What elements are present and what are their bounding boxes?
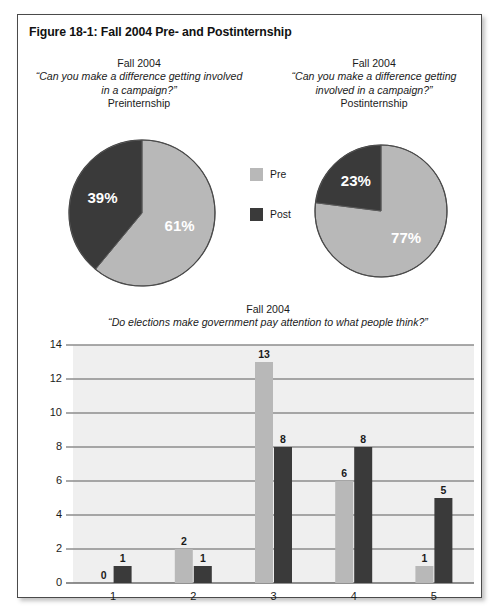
bar (194, 566, 212, 583)
pie-slice-label: 77% (391, 229, 421, 246)
x-axis-tick-label: 1 (110, 590, 116, 602)
bar (415, 566, 433, 583)
legend-swatch-pre (250, 168, 263, 181)
bar (335, 481, 353, 583)
bar-value-label: 8 (280, 433, 286, 445)
bar (274, 447, 292, 583)
bar-value-label: 0 (101, 569, 107, 581)
y-axis-tick-label: 12 (50, 372, 62, 384)
x-axis-tick-label: 2 (190, 590, 196, 602)
bar-value-label: 13 (258, 348, 270, 360)
bar (114, 566, 132, 583)
bar (255, 362, 273, 583)
y-axis-tick-label: 0 (56, 576, 62, 588)
bar-value-label: 1 (120, 552, 126, 564)
bar-value-label: 1 (200, 552, 206, 564)
legend-item-post: Post (250, 207, 302, 221)
y-axis-tick-label: 4 (56, 508, 62, 520)
bar-value-label: 2 (181, 535, 187, 547)
figure-frame: Figure 18-1: Fall 2004 Pre- and Postinte… (17, 14, 482, 598)
pie-left-season: Fall 2004 (32, 57, 246, 70)
pie-slice-label: 23% (341, 172, 371, 189)
bar (434, 498, 452, 583)
bar-header-season: Fall 2004 (78, 303, 458, 316)
y-axis-tick-label: 8 (56, 440, 62, 452)
pie-left-phase: Preinternship (32, 97, 246, 110)
bar-value-label: 6 (341, 467, 347, 479)
bar-chart: 024681012140112121383684155 (42, 337, 480, 609)
y-axis-tick-label: 10 (50, 406, 62, 418)
legend-item-pre: Pre (250, 167, 302, 181)
bar (354, 447, 372, 583)
bar (175, 549, 193, 583)
pie-chart-postinternship: 77%23% (302, 133, 462, 293)
bar-value-label: 1 (421, 552, 427, 564)
pie-legend: Pre Post (250, 167, 302, 247)
bar-header-question: “Do elections make government pay attent… (78, 316, 458, 329)
pie-chart-preinternship: 61%39% (52, 125, 232, 305)
pie-slice-label: 61% (165, 217, 195, 234)
pie-right-season: Fall 2004 (276, 57, 472, 70)
pie-right-header: Fall 2004 “Can you make a difference get… (276, 57, 472, 111)
pie-right-phase: Postinternship (276, 97, 472, 110)
bar-chart-header: Fall 2004 “Do elections make government … (78, 303, 458, 330)
bar-value-label: 8 (360, 433, 366, 445)
pie-left-header: Fall 2004 “Can you make a difference get… (32, 57, 246, 111)
x-axis-tick-label: 5 (431, 590, 437, 602)
legend-label-post: Post (270, 209, 291, 220)
pie-right-question: “Can you make a difference getting invol… (276, 70, 472, 97)
y-axis-tick-label: 2 (56, 542, 62, 554)
x-axis-tick-label: 3 (270, 590, 276, 602)
figure-title: Figure 18-1: Fall 2004 Pre- and Postinte… (29, 25, 292, 39)
pie-slice-label: 39% (87, 189, 117, 206)
y-axis-tick-label: 14 (50, 338, 62, 350)
legend-label-pre: Pre (270, 169, 286, 180)
legend-swatch-post (250, 208, 263, 221)
x-axis-tick-label: 4 (351, 590, 357, 602)
pie-left-question: “Can you make a difference getting invol… (32, 70, 246, 97)
y-axis-tick-label: 6 (56, 474, 62, 486)
bar-value-label: 5 (440, 484, 446, 496)
